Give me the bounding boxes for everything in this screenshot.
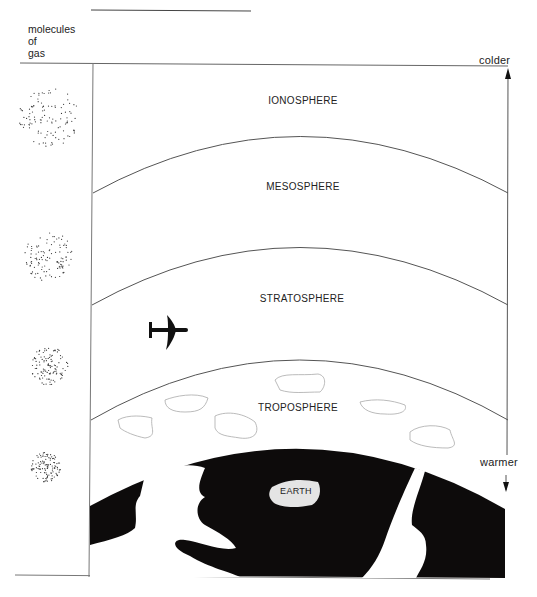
cloud-icon (275, 374, 325, 393)
gas-molecules (19, 89, 77, 483)
arrow-down-icon (503, 482, 509, 492)
left-frame (89, 63, 93, 577)
layer-mesosphere: MESOSPHERE (266, 181, 340, 192)
colder-label: colder (479, 54, 510, 66)
cloud-icon (118, 416, 153, 438)
gas-label-line: gas (28, 47, 75, 59)
warmer-label: warmer (480, 456, 518, 468)
gas-label-line: molecules (28, 23, 75, 35)
layer-ionosphere: IONOSPHERE (268, 95, 338, 106)
airplane-icon (149, 315, 188, 350)
cloud-icon (165, 395, 208, 412)
temperature-axis-line (507, 72, 508, 455)
layer-troposphere: TROPOSPHERE (258, 402, 338, 413)
layer-stratosphere: STRATOSPHERE (260, 293, 344, 304)
arrow-up-icon (505, 68, 511, 79)
molecules-of-gas-label: molecules of gas (28, 23, 75, 59)
cloud-icon (410, 426, 454, 448)
gas-label-line: of (28, 35, 75, 47)
layer-earth: EARTH (280, 486, 312, 496)
top-rule (91, 10, 251, 11)
cloud-icon (215, 413, 257, 438)
cloud-icon (360, 400, 406, 414)
earth-globe (90, 449, 505, 578)
